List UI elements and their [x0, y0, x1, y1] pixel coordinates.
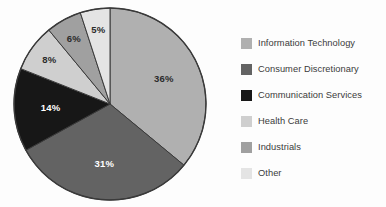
- pie-chart-plot-area: 36%31%14%8%6%5%: [0, 0, 226, 207]
- pie-slice-value-label: 6%: [67, 33, 81, 44]
- legend-color-swatch: [241, 64, 252, 75]
- legend-color-swatch: [241, 38, 252, 49]
- pie-slice-value-label: 36%: [154, 73, 174, 84]
- pie-slice-value-label: 31%: [95, 158, 115, 169]
- pie-slice-value-label: 8%: [42, 54, 56, 65]
- legend-item-label: Health Care: [258, 116, 308, 126]
- legend-item[interactable]: Other: [241, 160, 386, 186]
- legend-item[interactable]: Consumer Discretionary: [241, 56, 386, 82]
- legend-item-label: Other: [258, 168, 282, 178]
- legend-item[interactable]: Industrials: [241, 134, 386, 160]
- legend-item-label: Industrials: [258, 142, 301, 152]
- legend-color-swatch: [241, 142, 252, 153]
- pie-chart-figure: 36%31%14%8%6%5% Information TechnologyCo…: [0, 0, 386, 207]
- legend-item[interactable]: Communication Services: [241, 82, 386, 108]
- legend-color-swatch: [241, 116, 252, 127]
- chart-legend: Information TechnologyConsumer Discretio…: [241, 30, 386, 190]
- legend-color-swatch: [241, 168, 252, 179]
- legend-item-label: Communication Services: [258, 90, 362, 100]
- pie-slice-value-label: 14%: [41, 102, 61, 113]
- legend-color-swatch: [241, 90, 252, 101]
- legend-item-label: Information Technology: [258, 38, 355, 48]
- legend-item[interactable]: Health Care: [241, 108, 386, 134]
- pie-chart-svg: 36%31%14%8%6%5%: [0, 0, 226, 207]
- pie-slice-value-label: 5%: [91, 24, 105, 35]
- legend-item[interactable]: Information Technology: [241, 30, 386, 56]
- legend-item-label: Consumer Discretionary: [258, 64, 359, 74]
